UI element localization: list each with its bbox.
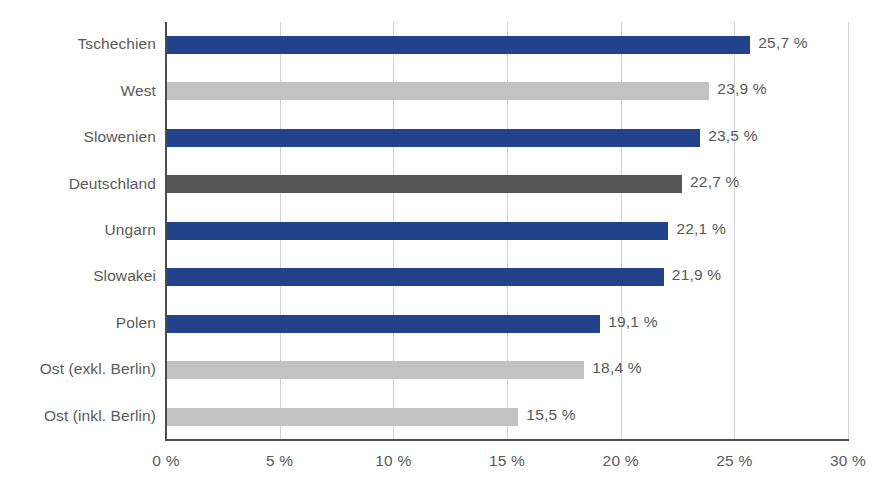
bar-row: 23,5 % xyxy=(166,115,848,161)
gridline-30 xyxy=(848,22,849,440)
bar-value-label: 15,5 % xyxy=(526,406,575,424)
category-label-deutschland: Deutschland xyxy=(0,175,156,193)
category-label-ost-exkl-berlin: Ost (exkl. Berlin) xyxy=(0,360,156,378)
bar-value-label: 22,7 % xyxy=(690,173,739,191)
bar-tschechien[interactable] xyxy=(166,36,750,54)
bar-ungarn[interactable] xyxy=(166,222,668,240)
bar-row: 22,7 % xyxy=(166,161,848,207)
category-label-slowenien: Slowenien xyxy=(0,128,156,146)
bar-row: 18,4 % xyxy=(166,347,848,393)
x-tick-label-30: 30 % xyxy=(830,452,866,470)
plot-area: 25,7 %23,9 %23,5 %22,7 %22,1 %21,9 %19,1… xyxy=(166,22,848,440)
bar-value-label: 22,1 % xyxy=(676,220,725,238)
category-label-ost-inkl-berlin: Ost (inkl. Berlin) xyxy=(0,407,156,425)
bar-row: 21,9 % xyxy=(166,254,848,300)
bar-row: 15,5 % xyxy=(166,394,848,440)
category-label-tschechien: Tschechien xyxy=(0,35,156,53)
category-label-west: West xyxy=(0,82,156,100)
x-tick-label-0: 0 % xyxy=(152,452,179,470)
bar-deutschland[interactable] xyxy=(166,175,682,193)
category-label-polen: Polen xyxy=(0,314,156,332)
category-label-slowakei: Slowakei xyxy=(0,267,156,285)
bar-polen[interactable] xyxy=(166,315,600,333)
bar-row: 22,1 % xyxy=(166,208,848,254)
bar-value-label: 19,1 % xyxy=(608,313,657,331)
x-tick-label-25: 25 % xyxy=(716,452,752,470)
x-tick-label-15: 15 % xyxy=(489,452,525,470)
y-axis-line xyxy=(165,22,167,441)
bar-slowenien[interactable] xyxy=(166,129,700,147)
category-label-ungarn: Ungarn xyxy=(0,221,156,239)
x-tick-label-20: 20 % xyxy=(603,452,639,470)
bar-row: 19,1 % xyxy=(166,301,848,347)
bar-chart: TschechienWestSlowenienDeutschlandUngarn… xyxy=(0,0,883,500)
bar-value-label: 23,9 % xyxy=(717,80,766,98)
bar-slowakei[interactable] xyxy=(166,268,664,286)
y-axis-category-labels: TschechienWestSlowenienDeutschlandUngarn… xyxy=(0,22,156,440)
bar-value-label: 25,7 % xyxy=(758,34,807,52)
bar-ost-exkl-berlin[interactable] xyxy=(166,361,584,379)
bar-value-label: 23,5 % xyxy=(708,127,757,145)
bar-value-label: 18,4 % xyxy=(592,359,641,377)
bar-value-label: 21,9 % xyxy=(672,266,721,284)
bar-row: 23,9 % xyxy=(166,68,848,114)
x-axis-line xyxy=(165,439,849,441)
x-tick-label-5: 5 % xyxy=(266,452,293,470)
bar-ost-inkl-berlin[interactable] xyxy=(166,408,518,426)
x-tick-label-10: 10 % xyxy=(375,452,411,470)
bar-west[interactable] xyxy=(166,82,709,100)
bar-row: 25,7 % xyxy=(166,22,848,68)
